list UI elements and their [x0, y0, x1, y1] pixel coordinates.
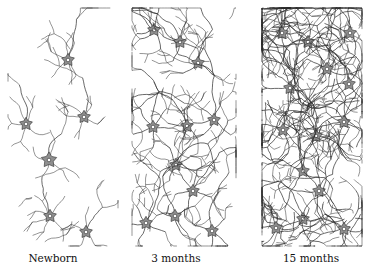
dendrite	[330, 189, 332, 198]
dendrite	[262, 163, 268, 165]
nucleus	[288, 86, 292, 90]
dendrite	[190, 154, 198, 156]
dendrite	[309, 111, 310, 119]
dendrite	[135, 174, 137, 183]
dendrite	[140, 54, 149, 55]
dendrite	[152, 60, 159, 63]
dendrite	[65, 168, 79, 179]
dendrite	[274, 115, 284, 124]
dendrite	[11, 142, 20, 147]
dendrite	[353, 64, 357, 69]
dendrite	[340, 63, 350, 71]
dendrite	[40, 133, 50, 135]
dendrite	[276, 186, 285, 191]
dendrite	[274, 19, 275, 25]
dendrite	[132, 121, 142, 130]
panel-label-15-months: 15 months	[256, 252, 366, 264]
dendrite	[297, 177, 319, 178]
dendrite	[325, 27, 339, 31]
neuron	[157, 25, 236, 145]
dendrite	[268, 64, 269, 78]
dendrite	[139, 240, 143, 247]
dendrite	[352, 210, 353, 213]
dendrite	[309, 89, 310, 100]
dendrite	[201, 157, 206, 164]
dendrite	[209, 194, 217, 231]
dendrite	[183, 235, 195, 240]
dendrite	[224, 80, 234, 83]
dendrite	[24, 222, 33, 232]
dendrite	[150, 11, 152, 23]
panel-3	[262, 8, 362, 246]
dendrite	[44, 60, 59, 67]
neuron-illustration	[0, 0, 367, 274]
dendrite	[141, 69, 159, 91]
dendrite	[132, 190, 134, 197]
dendrite	[8, 73, 19, 85]
dendrite	[63, 230, 64, 242]
dendrite	[229, 8, 235, 19]
dendrite	[360, 149, 362, 157]
dendrite	[359, 10, 362, 12]
dendrite	[315, 158, 316, 167]
dendrite	[303, 198, 310, 208]
dendrite	[337, 134, 346, 135]
dendrite	[359, 116, 361, 123]
dendrite	[262, 110, 273, 111]
dendrite	[97, 181, 103, 190]
dendrite	[289, 51, 290, 64]
dendrite	[360, 130, 363, 131]
dendrite	[47, 38, 51, 52]
neuron	[160, 8, 233, 86]
dendrite	[41, 34, 54, 40]
dendrite	[352, 11, 362, 19]
dendrite	[320, 222, 324, 228]
panel-2	[132, 8, 236, 246]
dendrite	[33, 96, 36, 108]
dendrite	[201, 8, 213, 29]
nucleus	[348, 31, 352, 35]
nucleus	[47, 158, 51, 162]
dendrite	[137, 174, 139, 183]
dendrite	[297, 193, 303, 198]
dendrite	[338, 99, 346, 106]
dendrite	[132, 25, 133, 30]
dendrite	[344, 41, 356, 42]
dendrite	[272, 29, 280, 30]
dendrite	[262, 88, 267, 92]
nucleus	[342, 227, 346, 231]
dendrite	[163, 176, 175, 216]
dendrite	[156, 134, 162, 141]
dendrite	[262, 78, 267, 88]
dendrite	[299, 30, 300, 37]
dendrite	[205, 168, 215, 178]
dendrite	[273, 175, 279, 182]
dendrite	[311, 15, 322, 29]
dendrite	[132, 21, 137, 32]
dendrite	[167, 103, 171, 114]
dendrite	[273, 62, 277, 72]
dendrite	[325, 225, 328, 230]
dendrite	[278, 186, 284, 202]
dendrite	[323, 152, 328, 157]
dendrite	[358, 167, 360, 177]
dendrite	[170, 55, 189, 63]
dendrite	[204, 193, 212, 196]
dendrite	[262, 19, 269, 25]
neuron	[60, 180, 118, 246]
dendrite	[324, 78, 329, 92]
dendrite	[69, 76, 76, 85]
dendrite	[132, 141, 137, 153]
dendrite	[212, 74, 222, 78]
dendrite	[313, 66, 320, 71]
dendrite	[49, 20, 54, 34]
dendrite	[325, 91, 332, 95]
dendrite	[356, 31, 362, 41]
dendrite	[326, 122, 327, 131]
dendrite	[354, 179, 362, 186]
dendrite	[231, 128, 236, 135]
dendrite	[303, 233, 312, 234]
dendrite	[158, 25, 163, 37]
dendrite	[225, 208, 226, 218]
nucleus	[280, 31, 284, 35]
